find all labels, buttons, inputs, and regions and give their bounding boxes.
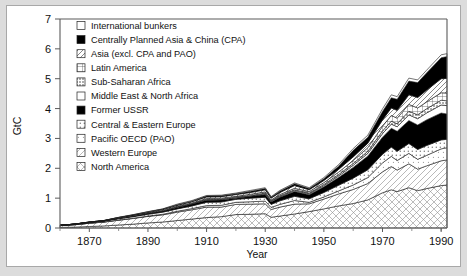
legend-swatch (77, 36, 85, 44)
legend-label: Central & Eastern Europe (91, 120, 196, 130)
legend-swatch (77, 92, 85, 100)
legend-label: International bunkers (91, 21, 177, 31)
x-axis-title: Year (246, 248, 268, 260)
x-tick-label: 1990 (429, 235, 453, 247)
y-tick-label: 3 (45, 132, 51, 144)
x-axis-ticks: 1870189019101930195019701990 (60, 228, 453, 247)
legend-item[interactable]: North America (77, 162, 150, 172)
figure-background: 1870189019101930195019701990 01234567 Ye… (0, 0, 467, 276)
legend-label: Centrally Planned Asia & China (CPA) (91, 35, 246, 45)
legend-item[interactable]: International bunkers (77, 21, 177, 31)
legend-swatch (77, 120, 85, 128)
y-tick-label: 4 (45, 103, 51, 115)
y-axis-ticks: 01234567 (45, 13, 60, 234)
legend-item[interactable]: Latin America (77, 63, 148, 73)
x-tick-label: 1910 (194, 235, 218, 247)
legend-label: Pacific OECD (PAO) (91, 134, 175, 144)
legend-swatch (77, 64, 85, 72)
chart-panel: 1870189019101930195019701990 01234567 Ye… (6, 5, 461, 267)
legend-item[interactable]: Former USSR (77, 105, 149, 115)
carbon-emissions-stacked-area-chart: 1870189019101930195019701990 01234567 Ye… (7, 6, 460, 266)
legend-label: Former USSR (91, 105, 149, 115)
legend-item[interactable]: Sub-Saharan Africa (77, 77, 172, 87)
y-tick-label: 7 (45, 13, 51, 25)
x-tick-label: 1930 (253, 235, 277, 247)
legend-item[interactable]: Middle East & North Africa (77, 91, 199, 101)
legend-label: Asia (excl. CPA and PAO) (91, 49, 196, 59)
y-tick-label: 1 (45, 192, 51, 204)
x-tick-label: 1870 (77, 235, 101, 247)
legend-swatch (77, 50, 85, 58)
legend-item[interactable]: Centrally Planned Asia & China (CPA) (77, 35, 246, 45)
legend-label: Western Europe (91, 148, 157, 158)
legend-swatch (77, 134, 85, 142)
x-tick-label: 1950 (312, 235, 336, 247)
y-tick-label: 0 (45, 222, 51, 234)
legend-label: Middle East & North Africa (91, 91, 199, 101)
chart-legend: International bunkersCentrally Planned A… (77, 21, 246, 172)
legend-swatch (77, 148, 85, 156)
y-tick-label: 2 (45, 162, 51, 174)
legend-label: Latin America (91, 63, 148, 73)
x-tick-label: 1970 (370, 235, 394, 247)
legend-item[interactable]: Central & Eastern Europe (77, 120, 196, 130)
legend-label: North America (91, 162, 150, 172)
legend-item[interactable]: Asia (excl. CPA and PAO) (77, 49, 196, 59)
legend-swatch (77, 163, 85, 171)
legend-item[interactable]: Western Europe (77, 148, 157, 158)
legend-swatch (77, 106, 85, 114)
legend-label: Sub-Saharan Africa (91, 77, 172, 87)
y-tick-label: 6 (45, 43, 51, 55)
x-tick-label: 1890 (136, 235, 160, 247)
legend-swatch (77, 78, 85, 86)
legend-swatch (77, 22, 85, 30)
legend-item[interactable]: Pacific OECD (PAO) (77, 134, 175, 144)
y-axis-title: GtC (11, 116, 23, 135)
y-tick-label: 5 (45, 73, 51, 85)
